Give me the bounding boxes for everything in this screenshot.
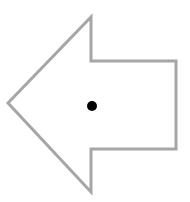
diagram-canvas — [0, 0, 190, 202]
center-dot — [87, 101, 97, 111]
